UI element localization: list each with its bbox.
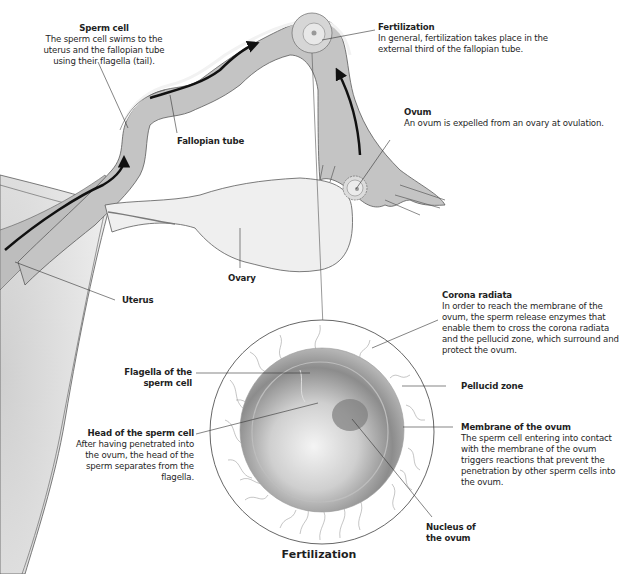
label-nucleus-of-ovum: Nucleus of the ovum xyxy=(426,522,486,544)
label-head-of-sperm: Head of the sperm cell After having pene… xyxy=(72,428,194,483)
label-ovum: Ovum An ovum is expelled from an ovary a… xyxy=(404,107,634,129)
label-corona-radiata: Corona radiata In order to reach the mem… xyxy=(442,290,622,356)
nucleus-of-ovum-title: Nucleus of the ovum xyxy=(426,522,486,544)
flagella-of-sperm-title: Flagella of the sperm cell xyxy=(120,367,192,389)
label-flagella-of-sperm: Flagella of the sperm cell xyxy=(120,367,192,389)
label-pellucid-zone: Pellucid zone xyxy=(461,381,523,392)
uterus-title: Uterus xyxy=(122,295,154,306)
ovum-near-ovary xyxy=(343,176,367,200)
sperm-cell-description: The sperm cell swims to the uterus and t… xyxy=(34,34,174,67)
label-ovary: Ovary xyxy=(228,273,256,284)
ovum-title: Ovum xyxy=(404,107,634,118)
fertilization-description: In general, fertilization takes place in… xyxy=(378,33,568,55)
head-of-sperm-title: Head of the sperm cell xyxy=(72,428,194,439)
label-fallopian-tube: Fallopian tube xyxy=(177,136,244,147)
diagram-caption: Fertilization xyxy=(0,548,634,561)
ovum-description: An ovum is expelled from an ovary at ovu… xyxy=(404,118,634,129)
pellucid-zone-title: Pellucid zone xyxy=(461,381,523,392)
fertilization-title: Fertilization xyxy=(378,22,568,33)
label-uterus: Uterus xyxy=(122,295,154,306)
sperm-cell-title: Sperm cell xyxy=(34,23,174,34)
fertilization-site xyxy=(292,13,332,53)
ovary-title: Ovary xyxy=(228,273,256,284)
corona-radiata-description: In order to reach the membrane of the ov… xyxy=(442,301,622,356)
ovary-shape xyxy=(105,178,353,272)
label-membrane-of-ovum: Membrane of the ovum The sperm cell ente… xyxy=(461,422,631,488)
corona-radiata-title: Corona radiata xyxy=(442,290,622,301)
label-fertilization: Fertilization In general, fertilization … xyxy=(378,22,568,55)
magnified-ovum xyxy=(210,320,434,544)
membrane-of-ovum-title: Membrane of the ovum xyxy=(461,422,631,433)
membrane-of-ovum-description: The sperm cell entering into contact wit… xyxy=(461,433,631,488)
fallopian-tube-title: Fallopian tube xyxy=(177,136,244,147)
label-sperm-cell: Sperm cell The sperm cell swims to the u… xyxy=(34,23,174,67)
head-of-sperm-description: After having penetrated into the ovum, t… xyxy=(72,439,194,483)
